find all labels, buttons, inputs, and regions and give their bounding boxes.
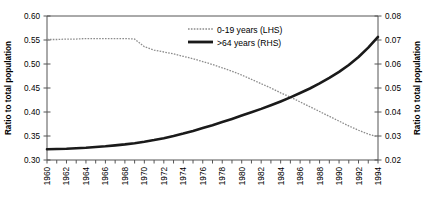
plot-frame — [47, 16, 378, 160]
x-tick-label: 1980 — [238, 167, 247, 186]
x-tick-label: 1982 — [257, 167, 266, 186]
legend-label-0-19-years: 0-19 years (LHS) — [217, 25, 283, 35]
left-tick-label: 0.35 — [24, 132, 40, 141]
x-tick-label: 1966 — [101, 167, 110, 186]
left-tick-label: 0.55 — [24, 36, 40, 45]
x-axis-ticks: 1960196219641966196819701972197419761978… — [43, 160, 383, 185]
x-tick-label: 1992 — [355, 167, 364, 186]
x-tick-label: 1994 — [374, 167, 383, 186]
x-tick-label: 1960 — [43, 167, 52, 186]
right-tick-label: 0.06 — [385, 60, 401, 69]
x-tick-label: 1990 — [335, 167, 344, 186]
right-axis-title: Ratio to total population — [413, 41, 422, 135]
population-ratio-line-chart: 0.300.350.400.450.500.550.60 0.020.030.0… — [0, 0, 428, 199]
x-tick-label: 1976 — [199, 167, 208, 186]
right-axis-ticks: 0.020.030.040.050.060.070.08 — [375, 12, 402, 165]
right-tick-label: 0.07 — [385, 36, 401, 45]
left-tick-label: 0.50 — [24, 60, 40, 69]
x-tick-label: 1988 — [316, 167, 325, 186]
right-tick-label: 0.05 — [385, 84, 401, 93]
right-tick-label: 0.02 — [385, 156, 401, 165]
x-tick-label: 1968 — [121, 167, 130, 186]
right-tick-label: 0.04 — [385, 108, 401, 117]
x-tick-label: 1974 — [179, 167, 188, 186]
chart-legend: 0-19 years (LHS) >64 years (RHS) — [188, 25, 283, 48]
x-tick-label: 1986 — [296, 167, 305, 186]
x-tick-label: 1962 — [62, 167, 71, 186]
chart-container: 0.300.350.400.450.500.550.60 0.020.030.0… — [0, 0, 428, 199]
right-tick-label: 0.08 — [385, 12, 401, 21]
x-tick-label: 1972 — [160, 167, 169, 186]
series-line-over-64-years — [47, 37, 378, 149]
x-tick-label: 1978 — [218, 167, 227, 186]
legend-label-over-64-years: >64 years (RHS) — [217, 38, 281, 48]
left-tick-label: 0.45 — [24, 84, 40, 93]
left-tick-label: 0.40 — [24, 108, 40, 117]
left-axis-title: Ratio to total population — [4, 41, 13, 135]
right-tick-label: 0.03 — [385, 132, 401, 141]
x-tick-label: 1970 — [140, 167, 149, 186]
left-tick-label: 0.30 — [24, 156, 40, 165]
series-line-0-19-years — [47, 39, 378, 137]
x-tick-label: 1964 — [82, 167, 91, 186]
left-tick-label: 0.60 — [24, 12, 40, 21]
x-tick-label: 1984 — [277, 167, 286, 186]
